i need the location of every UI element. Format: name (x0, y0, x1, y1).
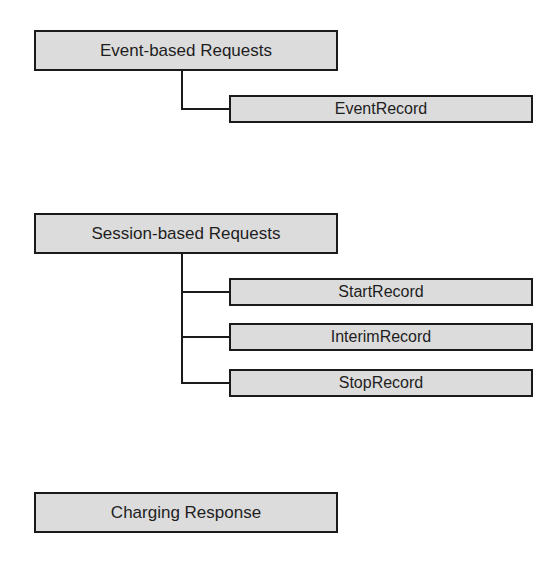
session-connector-vertical (181, 253, 183, 384)
interim-record-box: InterimRecord (229, 323, 533, 351)
event-based-requests-label: Event-based Requests (100, 41, 272, 61)
start-record-label: StartRecord (338, 283, 423, 301)
charging-response-label: Charging Response (111, 503, 261, 523)
event-connector-vertical (181, 70, 183, 110)
start-record-box: StartRecord (229, 278, 533, 306)
stop-record-label: StopRecord (339, 374, 424, 392)
charging-response-box: Charging Response (34, 492, 338, 533)
event-record-box: EventRecord (229, 95, 533, 123)
stop-record-box: StopRecord (229, 369, 533, 397)
event-based-requests-box: Event-based Requests (34, 30, 338, 71)
stop-record-connector (181, 382, 230, 384)
start-record-connector (181, 291, 230, 293)
event-record-label: EventRecord (335, 100, 428, 118)
interim-record-connector (181, 336, 230, 338)
session-based-requests-label: Session-based Requests (91, 224, 280, 244)
event-connector-horizontal (181, 108, 230, 110)
interim-record-label: InterimRecord (331, 328, 431, 346)
session-based-requests-box: Session-based Requests (34, 213, 338, 254)
